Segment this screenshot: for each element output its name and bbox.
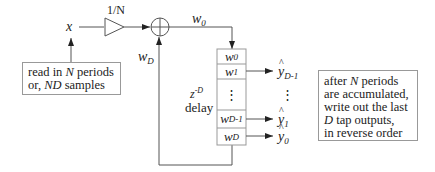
tap-w0: w0	[217, 49, 246, 64]
output-yD-1: ^yD-1	[278, 65, 298, 81]
tap-wD-1: wD-1	[217, 110, 246, 128]
tap-dots: ⋮	[217, 79, 246, 110]
tap-w1: w1	[217, 64, 246, 79]
diagram-canvas: x 1/N w0 wD z-D delay w0 w1 ⋮ wD-1 wD ^y…	[0, 0, 435, 172]
input-note-line2: or, ND samples	[28, 79, 115, 92]
output-y0: ^y0	[278, 130, 289, 146]
output-note-box: after N periods are accumulated, write o…	[318, 70, 418, 141]
gain-label: 1/N	[107, 4, 125, 16]
delay-z-label: z-D	[190, 87, 203, 100]
tap-wD: wD	[217, 128, 246, 145]
delay-word-label: delay	[185, 101, 213, 114]
input-note-box: read in N periods or, ND samples	[22, 62, 121, 95]
output-note-line5: in reverse order	[324, 127, 412, 140]
sum-output-label: w0	[192, 12, 206, 28]
gain-triangle-icon	[105, 18, 124, 36]
sum-to-delay-wire	[169, 27, 232, 49]
input-label: x	[66, 20, 72, 34]
gain-label-text: 1/N	[107, 3, 125, 17]
feedback-label: wD	[138, 50, 154, 66]
output-dots: ⋮	[281, 88, 294, 101]
